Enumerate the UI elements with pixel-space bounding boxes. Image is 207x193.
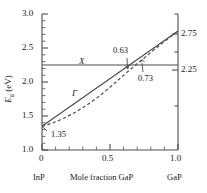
x-band-label: X: [79, 57, 85, 66]
left-species-label: InP: [33, 173, 45, 182]
crossing-marker-073: [141, 60, 145, 72]
y-axis-symbol: E: [3, 97, 13, 103]
y-axis-units: (eV): [3, 75, 13, 92]
gamma-band-label: Γ: [72, 89, 77, 98]
x-tick-label-0-5: 0.5: [102, 154, 113, 163]
x-tick-label-0: 0: [39, 154, 44, 163]
y-tick-label-1-0: 1.0: [22, 145, 33, 154]
annotation-0-73: 0.73: [138, 74, 153, 83]
right-tick-label-2-75: 2.75: [181, 29, 197, 38]
y-axis-subscript: g: [7, 94, 14, 97]
x-axis-caption: Mole fraction GaP: [70, 173, 133, 182]
right-tick-label-2-25: 2.25: [181, 65, 197, 74]
annotation-0-63: 0.63: [113, 46, 128, 55]
y-tick-label-2-0: 2.0: [22, 77, 33, 86]
x-axis-major-ticks: [42, 144, 178, 150]
right-axis-ticks: [172, 14, 178, 106]
annotation-1-35: 1.35: [51, 130, 66, 139]
series-gamma-line: [42, 31, 178, 126]
y-tick-label-2-5: 2.5: [22, 43, 33, 52]
y-axis-caption: Eg (eV): [4, 66, 14, 112]
y-tick-label-3-0: 3.0: [22, 9, 33, 18]
right-species-label: GaP: [167, 173, 182, 182]
start-point-marker: [42, 126, 47, 131]
x-tick-label-1-0: 1.0: [170, 154, 181, 163]
chart-plot-area: [0, 0, 207, 193]
y-tick-label-1-5: 1.5: [22, 111, 33, 120]
band-gap-chart: 3.0 2.5 2.0 1.5 1.0 2.75 2.25 0 0.5 1.0 …: [0, 0, 207, 193]
